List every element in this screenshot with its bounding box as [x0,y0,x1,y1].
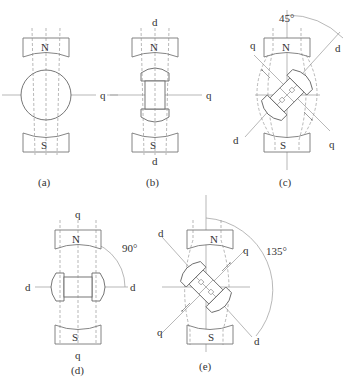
north-label: N [282,41,290,53]
north-label: N [210,233,218,245]
north-label: N [150,41,158,53]
flux-arrow [304,112,312,120]
panel-a: N S q (a) [2,28,118,189]
north-label: N [41,41,49,53]
north-label: N [72,233,80,245]
q-axis-label-left: q [157,326,163,338]
caption-a: (a) [38,176,51,189]
south-label: S [72,331,78,343]
q-axis-label-right: q [329,138,335,150]
south-label: S [208,331,214,343]
caption-d: (d) [71,364,84,377]
panel-d: q 90° d d q N S (d) [25,208,137,377]
q-label: q [100,89,106,101]
d-axis-label-bottom: d [152,155,158,167]
d-axis-label-left: d [233,134,239,146]
panel-c: 45° q d d q N S (c) [233,10,343,189]
d-axis-label-right: d [335,42,341,54]
angle-label: 90° [122,242,137,254]
caption-c: (c) [279,176,292,189]
q-axis-label-bottom: q [75,349,81,361]
panel-e: d q 135° q d N S (e) [157,195,287,373]
angle-label: 45° [279,12,294,24]
rotor-orientation-diagram: N S q (a) d q d N S (b) [0,0,351,384]
d-axis-label-left: d [25,281,31,293]
panel-b: d q d N S (b) [110,16,212,189]
q-label: q [206,89,212,101]
caption-e: (e) [199,360,212,373]
q-axis-label-top: q [75,208,81,220]
d-axis-label-left: d [158,227,164,239]
d-axis-label-right: d [254,335,260,347]
d-axis-label-top: d [152,16,158,28]
d-axis-label-right: d [130,281,136,293]
q-axis-label-left: q [250,39,256,51]
caption-b: (b) [146,176,159,189]
south-label: S [41,139,47,151]
angle-arc [287,15,343,38]
flux-arrow [222,263,230,271]
south-label: S [280,139,286,151]
q-axis-label-right: q [243,244,249,256]
angle-label: 135° [266,245,287,257]
south-label: S [150,139,156,151]
